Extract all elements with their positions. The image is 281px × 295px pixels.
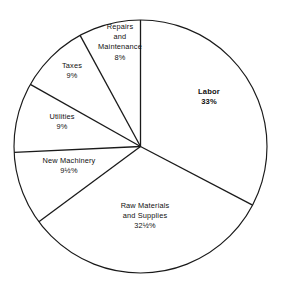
pie-slice-label: Labor33% — [198, 87, 220, 107]
pie-slice-label-value: 8% — [98, 52, 142, 62]
pie-slice-label-value: 33% — [198, 97, 220, 107]
pie-slice-label: New Machinery9½% — [43, 156, 96, 176]
pie-slice-label-name: and — [98, 32, 142, 42]
pie-slice-label: Taxes9% — [62, 61, 82, 81]
pie-slice-label-name: and Supplies — [121, 211, 170, 221]
pie-slice-label-value: 9% — [49, 122, 74, 132]
pie-slice-label-value: 9½% — [43, 166, 96, 176]
pie-slice-label-name: Taxes — [62, 61, 82, 71]
pie-slice-label-name: New Machinery — [43, 156, 96, 166]
pie-slice-label-name: Utilities — [49, 112, 74, 122]
pie-slice-label: Utilities9% — [49, 112, 74, 132]
pie-slice-label-name: Repairs — [98, 22, 142, 32]
pie-slice-label-value: 9% — [62, 71, 82, 81]
pie-slice-label-name: Maintenance — [98, 42, 142, 52]
pie-chart: Labor33%Raw Materialsand Supplies32½%New… — [0, 0, 281, 295]
pie-slice-label: Raw Materialsand Supplies32½% — [121, 201, 170, 232]
pie-slice-label-value: 32½% — [121, 221, 170, 231]
pie-slice-label: RepairsandMaintenance8% — [98, 22, 142, 63]
pie-slice-label-name: Raw Materials — [121, 201, 170, 211]
pie-slice-label-name: Labor — [198, 87, 220, 97]
